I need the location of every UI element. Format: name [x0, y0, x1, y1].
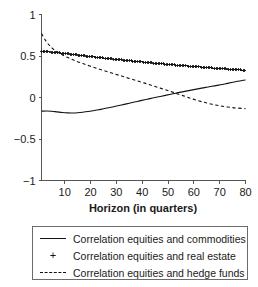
x-tick-label: 80 [239, 186, 251, 198]
y-tick-label: 0.5 [20, 50, 35, 62]
legend-label-hedge-funds: Correlation equities and hedge funds [73, 266, 245, 280]
series-markers-real-estate [40, 50, 246, 71]
x-axis-title: Horizon (in quarters) [89, 202, 198, 214]
legend-item-real-estate: + Correlation equities and real estate [33, 247, 247, 264]
legend-row-list: Correlation equities and commodities + C… [33, 227, 247, 281]
y-axis-tick-labels: 10.50−0.5−1 [14, 9, 36, 187]
x-tick-label: 70 [214, 186, 226, 198]
series-line-hedge-funds [42, 34, 246, 109]
legend-item-commodities: Correlation equities and commodities [33, 230, 247, 247]
solid-line-marker-icon [33, 232, 73, 246]
y-tick-label: −0.5 [14, 133, 36, 145]
legend-item-hedge-funds: Correlation equities and hedge funds [33, 264, 247, 281]
y-tick-label: 1 [29, 9, 35, 21]
x-tick-label: 50 [162, 186, 174, 198]
x-tick-label: 40 [136, 186, 148, 198]
chart-legend: Correlation equities and commodities + C… [32, 226, 248, 280]
plus-marker-icon: + [33, 249, 73, 263]
x-tick-label: 30 [110, 186, 122, 198]
series-line-commodities [42, 80, 246, 113]
correlation-horizon-chart-figure: 10.50−0.5−1 1020304050607080 Horizon (in… [0, 0, 258, 287]
y-tick-label: −1 [23, 175, 36, 187]
x-axis-tick-labels: 1020304050607080 [59, 186, 252, 198]
dashed-line-marker-icon [33, 266, 73, 280]
y-tick-label: 0 [29, 92, 35, 104]
x-tick-label: 60 [188, 186, 200, 198]
legend-label-commodities: Correlation equities and commodities [73, 232, 246, 246]
chart-plot-area: 10.50−0.5−1 1020304050607080 Horizon (in… [0, 0, 258, 222]
x-tick-label: 10 [59, 186, 71, 198]
legend-label-real-estate: Correlation equities and real estate [73, 249, 236, 263]
x-tick-label: 20 [84, 186, 96, 198]
